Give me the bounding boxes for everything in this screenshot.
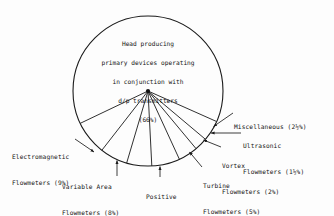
callout-turbine-line-1: Turbine [203, 182, 260, 191]
center-line-3: in conjunction with [73, 77, 223, 86]
callout-electromagnetic-line-2: Flowmeters (9%) [12, 179, 69, 188]
pie-chart-figure: Head producing primary devices operating… [0, 0, 334, 216]
leader-vortex [204, 140, 222, 147]
callout-positive-line-1: Positive [146, 193, 203, 202]
center-line-1: Head producing [73, 39, 223, 48]
leader-turbine [190, 152, 203, 167]
center-line-5: (66%) [73, 115, 223, 124]
callout-turbine-line-2: Flowmeters (5%) [203, 208, 260, 216]
callout-variable-line-2: Flowmeters (8%) [62, 209, 119, 216]
callout-label-electromagnetic: Electromagnetic Flowmeters (9%) [12, 136, 69, 205]
callout-variable-line-1: Variable Area [62, 183, 119, 192]
callout-label-positive-displacement: Positive Displacement Flowmeters (6%) [146, 176, 203, 216]
callout-electromagnetic-line-1: Electromagnetic [12, 153, 69, 162]
center-line-4: d/p transmitters [73, 96, 223, 105]
center-slice-label: Head producing primary devices operating… [73, 30, 223, 133]
center-line-2: primary devices operating [73, 58, 223, 67]
leader-electromagnetic [75, 139, 94, 152]
callout-label-turbine: Turbine Flowmeters (5%) [203, 165, 260, 216]
callout-label-variable-area: Variable Area Flowmeters (8%) [62, 166, 119, 216]
